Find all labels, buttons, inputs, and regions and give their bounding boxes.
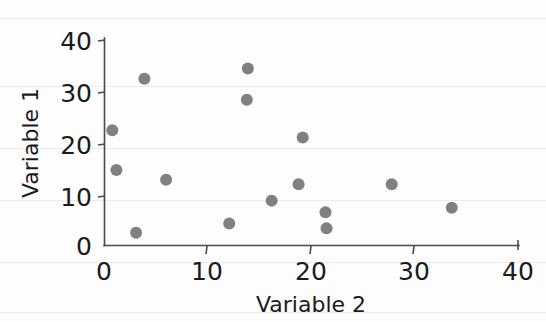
x-tick-label: 20 <box>295 257 327 286</box>
y-tick-labels: 40 30 20 10 0 <box>60 27 92 261</box>
data-point <box>266 195 278 207</box>
data-point <box>319 206 331 218</box>
y-tick-label: 30 <box>60 79 92 108</box>
x-tick-label: 40 <box>502 257 534 286</box>
data-point <box>297 131 309 143</box>
x-tick-labels: 0 10 20 30 40 <box>96 257 534 286</box>
data-point <box>110 164 122 176</box>
y-tick-label: 40 <box>60 27 92 56</box>
plot-canvas: 40 30 20 10 0 0 10 20 30 40 Variable 2 V… <box>0 0 546 322</box>
x-tick-label: 30 <box>398 257 430 286</box>
y-tick-label: 10 <box>60 183 92 212</box>
data-point <box>321 222 333 234</box>
x-axis-title: Variable 2 <box>256 292 366 317</box>
data-point <box>386 178 398 190</box>
y-tick-label: 20 <box>60 131 92 160</box>
y-axis-title: Variable 1 <box>18 88 43 198</box>
y-tick-label: 0 <box>76 232 92 261</box>
data-point <box>106 124 118 136</box>
data-point-group <box>106 63 457 239</box>
data-point <box>160 174 172 186</box>
x-tick-label: 10 <box>191 257 223 286</box>
data-point <box>138 73 150 85</box>
data-point <box>241 94 253 106</box>
x-axis-ticks <box>206 240 518 254</box>
data-point <box>293 178 305 190</box>
data-point <box>223 218 235 230</box>
x-tick-label: 0 <box>96 257 112 286</box>
data-point <box>446 202 458 214</box>
scatter-plot-figure: 40 30 20 10 0 0 10 20 30 40 Variable 2 V… <box>0 0 546 322</box>
data-point <box>242 63 254 75</box>
data-point <box>130 227 142 239</box>
